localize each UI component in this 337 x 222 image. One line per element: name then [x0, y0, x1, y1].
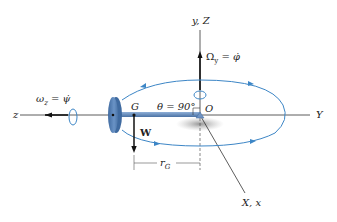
label-O: O: [205, 104, 213, 114]
label-G: G: [131, 102, 139, 112]
label-X-x: X, x: [242, 198, 261, 208]
label-Y-axis: Y: [316, 110, 323, 120]
label-theta: θ = 90°: [157, 102, 195, 112]
disk-center: [112, 114, 115, 117]
label-y-Z: y, Z: [192, 16, 210, 26]
theta-text: θ = 90°: [157, 101, 195, 112]
orbit-arrow-4: [250, 139, 256, 144]
weight-arrowhead: [131, 146, 136, 153]
precession-orbit-right: [275, 105, 285, 133]
precession-orbit-back: [122, 80, 283, 105]
label-omega-z: ωz = ψ̇: [36, 94, 70, 107]
orbit-arrow-1: [140, 83, 146, 88]
omega-z-arrowhead: [45, 113, 52, 118]
omega-z-equation: = ψ̇: [48, 93, 71, 104]
label-rG: rG: [160, 158, 170, 171]
omega-z-symbol: ω: [36, 93, 44, 104]
omega-y-arrowhead: [198, 51, 203, 58]
omega-z-spin-indicator: [69, 109, 77, 125]
label-y-Z-text: y, Z: [192, 15, 210, 26]
label-W: W: [140, 128, 151, 138]
gyro-rod: [118, 112, 200, 117]
X-x-axis: [200, 115, 245, 193]
label-z-axis: z: [13, 110, 18, 120]
rG-subscript: G: [165, 163, 171, 171]
label-omega-y: Ωy = φ̇: [206, 52, 240, 65]
omega-y-equation: = φ̇: [218, 51, 240, 62]
